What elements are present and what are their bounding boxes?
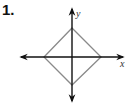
y-axis-label: y [75, 8, 81, 19]
x-axis-label: x [119, 58, 125, 69]
coordinate-diagram: y x [0, 0, 129, 110]
